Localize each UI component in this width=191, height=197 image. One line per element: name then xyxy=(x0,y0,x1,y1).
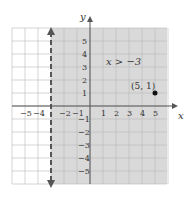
svg-text:5: 5 xyxy=(82,37,87,46)
svg-text:3: 3 xyxy=(127,109,132,118)
svg-text:−5: −5 xyxy=(78,167,90,176)
svg-text:4: 4 xyxy=(82,50,87,59)
svg-text:2: 2 xyxy=(114,109,119,118)
svg-text:4: 4 xyxy=(140,109,145,118)
svg-text:5: 5 xyxy=(153,109,158,118)
x-axis-arrow-icon xyxy=(172,103,178,109)
inequality-graph: x y x > −3 −5−4−2−11234554321−1−2−3−4−5 … xyxy=(0,0,191,197)
svg-text:2: 2 xyxy=(82,76,87,85)
coordinate-plane: x y x > −3 −5−4−2−11234554321−1−2−3−4−5 … xyxy=(0,0,191,197)
svg-text:−1: −1 xyxy=(78,115,90,124)
y-axis-label: y xyxy=(79,11,86,22)
svg-text:1: 1 xyxy=(82,89,87,98)
svg-text:−3: −3 xyxy=(78,141,90,150)
svg-text:−2: −2 xyxy=(78,128,90,137)
svg-text:−4: −4 xyxy=(33,109,45,118)
svg-text:−2: −2 xyxy=(59,109,71,118)
inequality-label: x > −3 xyxy=(106,56,141,67)
svg-text:1: 1 xyxy=(101,109,106,118)
point-label: (5, 1) xyxy=(131,81,155,91)
svg-text:3: 3 xyxy=(82,63,87,72)
point-marker xyxy=(153,91,158,96)
svg-text:−5: −5 xyxy=(20,109,32,118)
svg-text:−4: −4 xyxy=(78,154,90,163)
x-axis-label: x xyxy=(178,110,184,121)
y-axis-arrow-icon xyxy=(87,16,93,22)
